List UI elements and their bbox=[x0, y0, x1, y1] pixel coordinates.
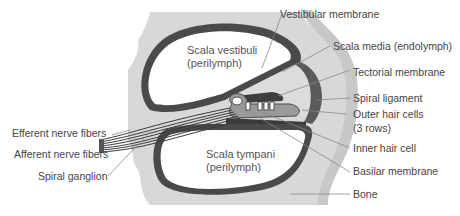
scala-tympani-line2: (perilymph) bbox=[206, 161, 275, 174]
scala-vestibuli-line2: (perilymph) bbox=[187, 57, 257, 70]
cochlea-diagram: Scala vestibuli (perilymph) Scala tympan… bbox=[0, 0, 460, 216]
label-inner-hair-cell: Inner hair cell bbox=[353, 142, 416, 154]
label-spiral-ganglion: Spiral ganglion bbox=[38, 170, 107, 182]
label-bone: Bone bbox=[353, 188, 378, 200]
label-basilar-membrane: Basilar membrane bbox=[353, 165, 438, 177]
label-vestibular-membrane: Vestibular membrane bbox=[280, 8, 379, 20]
label-scala-media: Scala media (endolymph) bbox=[333, 40, 452, 52]
label-tectorial-membrane: Tectorial membrane bbox=[353, 66, 445, 78]
label-efferent-nerve-fibers: Efferent nerve fibers bbox=[12, 127, 106, 139]
scala-vestibuli-label: Scala vestibuli (perilymph) bbox=[187, 44, 257, 70]
label-afferent-nerve-fibers: Afferent nerve fibers bbox=[14, 148, 108, 160]
scala-tympani-label: Scala tympani (perilymph) bbox=[206, 148, 275, 174]
label-outer-hair-cells: Outer hair cells bbox=[353, 108, 424, 120]
hair-cells bbox=[246, 102, 274, 110]
scala-tympani-line1: Scala tympani bbox=[206, 148, 275, 161]
label-outer-hair-cells-rows: (3 rows) bbox=[353, 122, 391, 134]
scala-vestibuli-line1: Scala vestibuli bbox=[187, 44, 257, 57]
label-spiral-ligament: Spiral ligament bbox=[353, 92, 422, 104]
